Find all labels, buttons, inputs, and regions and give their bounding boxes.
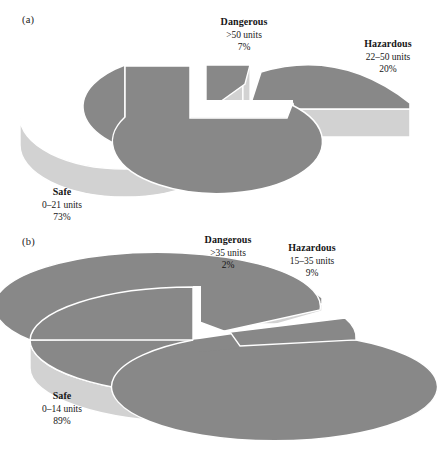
- callout-a-dangerous-percent: 7%: [190, 41, 298, 53]
- callout-a-safe-title: Safe: [8, 186, 116, 199]
- callout-a-dangerous-range: >50 units: [190, 29, 298, 41]
- callout-b-hazardous-percent: 9%: [258, 267, 366, 279]
- callout-b-safe: Safe 0–14 units 89%: [8, 390, 116, 427]
- chart-panel-b: (b): [0, 228, 440, 457]
- callout-a-dangerous: Dangerous >50 units 7%: [190, 16, 298, 53]
- callout-b-safe-title: Safe: [8, 390, 116, 403]
- callout-b-hazardous: Hazardous 15–35 units 9%: [258, 242, 366, 279]
- callout-b-hazardous-title: Hazardous: [258, 242, 366, 255]
- chart-panel-a: (a): [0, 0, 440, 228]
- callout-b-hazardous-range: 15–35 units: [258, 255, 366, 267]
- callout-a-hazardous-percent: 20%: [336, 63, 440, 75]
- callout-a-dangerous-title: Dangerous: [190, 16, 298, 29]
- callout-a-hazardous: Hazardous 22–50 units 20%: [336, 38, 440, 75]
- callout-a-hazardous-title: Hazardous: [336, 38, 440, 51]
- callout-b-safe-percent: 89%: [8, 415, 116, 427]
- callout-a-safe-percent: 73%: [8, 211, 116, 223]
- callout-a-safe-range: 0–21 units: [8, 199, 116, 211]
- callout-a-safe: Safe 0–21 units 73%: [8, 186, 116, 223]
- callout-b-safe-range: 0–14 units: [8, 403, 116, 415]
- callout-a-hazardous-range: 22–50 units: [336, 51, 440, 63]
